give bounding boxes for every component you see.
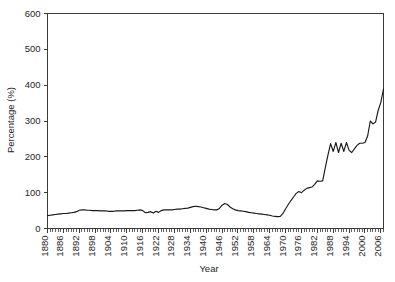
x-tick-label: 1880 <box>39 236 50 257</box>
x-tick-label: 1952 <box>229 236 240 257</box>
line-chart: 0100200300400500600 18801886189218981904… <box>0 0 395 282</box>
x-tick-group <box>48 229 384 234</box>
x-tick-label: 1940 <box>197 236 208 257</box>
x-tick-label: 1904 <box>102 236 113 257</box>
y-tick-label: 400 <box>25 79 41 90</box>
x-tick-label: 1982 <box>308 236 319 257</box>
x-tick-label: 1958 <box>245 235 256 256</box>
x-tick-label-group: 1880188618921898190419101916192219281934… <box>39 235 383 256</box>
x-tick-label: 1886 <box>54 236 65 257</box>
axes-frame <box>48 14 384 229</box>
x-tick-label: 1976 <box>292 236 303 257</box>
y-tick-group <box>44 14 48 229</box>
y-axis-title: Percentage (%) <box>5 87 16 153</box>
x-tick-label: 2006 <box>372 236 383 257</box>
x-tick-label: 1946 <box>213 236 224 257</box>
data-series-line <box>48 89 384 217</box>
x-tick-label: 1898 <box>86 236 97 257</box>
x-tick-label: 1916 <box>134 236 145 257</box>
x-tick-label: 1988 <box>324 236 335 257</box>
x-axis-title: Year <box>199 263 218 274</box>
y-tick-label: 100 <box>25 187 41 198</box>
chart-container: 0100200300400500600 18801886189218981904… <box>0 0 395 282</box>
y-tick-label: 200 <box>25 151 41 162</box>
x-tick-label: 1910 <box>118 236 129 257</box>
x-tick-label: 1994 <box>340 236 351 257</box>
x-tick-label: 1922 <box>150 236 161 257</box>
x-tick-label: 1970 <box>277 236 288 257</box>
y-tick-label: 600 <box>25 8 41 19</box>
x-tick-label: 1928 <box>165 236 176 257</box>
y-tick-label: 0 <box>35 223 40 234</box>
x-tick-label: 2000 <box>356 236 367 257</box>
x-tick-label: 1964 <box>261 236 272 257</box>
y-tick-label: 500 <box>25 43 41 54</box>
x-tick-label: 1934 <box>181 236 192 257</box>
y-tick-label-group: 0100200300400500600 <box>25 8 41 234</box>
x-tick-label: 1892 <box>70 236 81 257</box>
y-tick-label: 300 <box>25 115 41 126</box>
